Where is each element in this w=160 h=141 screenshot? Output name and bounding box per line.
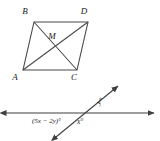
- vertex-label-b: B: [22, 6, 28, 16]
- vertex-label-c: C: [71, 72, 78, 82]
- parallelogram-shape: [23, 22, 88, 70]
- slanted-transversal-line: [56, 86, 118, 137]
- vertex-label-m: M: [47, 31, 56, 41]
- angle-expression-label: (5x − 2y)°: [32, 117, 61, 125]
- transversal-diagram: [6, 86, 154, 137]
- vertex-label-d: D: [80, 6, 88, 16]
- geometry-figure: B D C A M (5x − 2y)° x° y°: [0, 0, 160, 141]
- geometry-diagram-svg: B D C A M (5x − 2y)° x° y°: [0, 0, 160, 141]
- vertex-label-a: A: [11, 72, 18, 82]
- angle-label-x: x°: [76, 117, 83, 126]
